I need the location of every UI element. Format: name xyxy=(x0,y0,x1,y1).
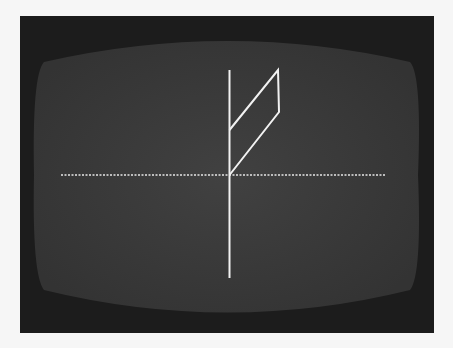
crt-photo xyxy=(0,0,453,348)
crt-screen xyxy=(34,41,419,313)
